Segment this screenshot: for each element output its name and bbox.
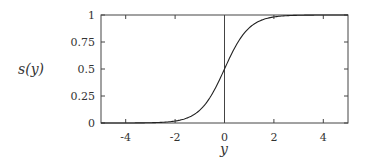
y-axis-label: s(y): [18, 61, 44, 77]
y-tick-label: 0.25: [71, 90, 96, 103]
y-tick-label: 0.5: [78, 63, 96, 76]
x-tick-label: -2: [170, 131, 181, 144]
y-tick-label: 0: [88, 117, 95, 130]
y-tick-label: 0.75: [71, 36, 96, 49]
x-tick-label: -4: [120, 131, 131, 144]
x-axis-label: y: [219, 141, 229, 157]
sigmoid-chart: -4-202400.250.50.751ys(y): [0, 0, 366, 167]
y-tick-label: 1: [88, 9, 95, 22]
x-tick-label: 4: [320, 131, 327, 144]
x-tick-label: 2: [270, 131, 277, 144]
